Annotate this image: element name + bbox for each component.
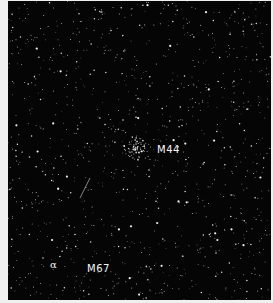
star: [184, 205, 185, 206]
star: [191, 7, 192, 8]
star: [251, 145, 253, 147]
star: [219, 250, 220, 251]
star: [70, 39, 71, 40]
star: [51, 294, 52, 295]
star: [24, 82, 25, 83]
star: [50, 57, 51, 58]
star: [90, 150, 91, 151]
star: [84, 296, 85, 297]
star: [76, 34, 77, 35]
star: [94, 30, 95, 31]
star: [101, 37, 102, 38]
star: [68, 234, 69, 235]
cluster-star: [142, 140, 144, 142]
star: [233, 86, 234, 87]
star: [22, 20, 23, 21]
cluster-star: [129, 144, 130, 145]
cluster-star: [134, 150, 135, 151]
star: [129, 110, 130, 111]
star: [113, 126, 114, 127]
star: [81, 21, 82, 22]
star: [30, 113, 31, 114]
star: [49, 147, 50, 148]
star: [77, 248, 78, 249]
star: [149, 266, 150, 267]
star: [89, 40, 90, 41]
star: [135, 116, 137, 118]
star: [132, 211, 133, 212]
star: [157, 198, 158, 199]
star: [21, 64, 22, 65]
star: [248, 101, 249, 102]
star: [250, 105, 251, 106]
star: [39, 126, 40, 127]
star: [32, 192, 33, 193]
star: [219, 12, 220, 13]
star: [124, 49, 125, 50]
star: [138, 272, 139, 273]
star: [153, 149, 154, 150]
star: [92, 212, 93, 213]
star: [53, 167, 55, 169]
star: [16, 160, 17, 161]
star: [108, 127, 109, 128]
star: [247, 108, 249, 110]
star: [187, 32, 188, 33]
star: [16, 280, 17, 281]
star: [142, 213, 143, 214]
star: [159, 293, 160, 294]
star: [38, 195, 39, 196]
star: [238, 23, 239, 24]
star: [114, 173, 115, 174]
star: [233, 101, 235, 103]
star: [86, 233, 87, 234]
star: [131, 9, 132, 10]
star: [236, 218, 237, 219]
star: [40, 231, 41, 232]
star: [215, 169, 216, 170]
star: [31, 82, 32, 83]
star: [120, 7, 122, 9]
star: [177, 268, 178, 269]
star: [157, 99, 158, 100]
star: [20, 234, 21, 235]
star: [241, 79, 242, 80]
star: [22, 207, 24, 209]
star: [261, 288, 263, 290]
star: [155, 293, 156, 294]
star: [125, 150, 126, 151]
star: [225, 287, 226, 288]
star: [143, 273, 144, 274]
photo-frame: M44 α M67: [0, 0, 273, 303]
star: [105, 50, 106, 51]
star: [172, 288, 173, 289]
star: [155, 191, 156, 192]
star: [230, 273, 231, 274]
star: [106, 45, 107, 46]
star: [124, 263, 125, 264]
star: [40, 128, 41, 129]
star: [15, 124, 17, 126]
star: [258, 96, 259, 97]
cluster-star: [136, 141, 138, 143]
star: [43, 15, 44, 16]
star: [198, 80, 199, 81]
star: [75, 246, 77, 248]
cluster-star: [141, 144, 142, 145]
star: [262, 33, 263, 34]
star: [83, 84, 84, 85]
cluster-star: [136, 147, 138, 149]
star: [118, 246, 120, 248]
star: [82, 201, 83, 202]
star: [184, 299, 185, 300]
star: [11, 246, 12, 247]
star: [259, 102, 260, 103]
star: [84, 146, 85, 147]
star: [64, 287, 66, 289]
star: [268, 289, 269, 290]
star: [194, 66, 195, 67]
star: [256, 54, 257, 55]
star: [37, 210, 38, 211]
star: [11, 32, 12, 33]
star: [56, 298, 57, 299]
